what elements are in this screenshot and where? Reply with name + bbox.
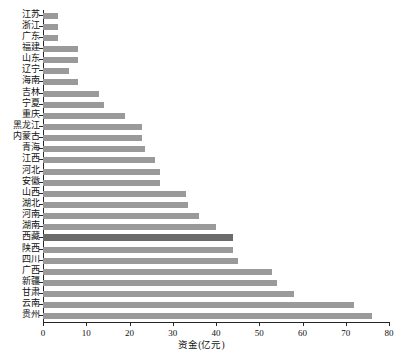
bar-新疆 xyxy=(43,280,277,286)
bar-内蒙古 xyxy=(43,135,142,141)
category-label-海南: 海南 xyxy=(0,76,40,85)
bar-安徽 xyxy=(43,180,160,186)
x-tick-label-70: 70 xyxy=(331,328,361,338)
bar-重庆 xyxy=(43,113,125,119)
x-tick-label-60: 60 xyxy=(288,328,318,338)
bar-山东 xyxy=(43,57,78,63)
category-label-广东: 广东 xyxy=(0,32,40,41)
bar-湖北 xyxy=(43,202,188,208)
x-tick xyxy=(259,322,260,326)
bar-河北 xyxy=(43,169,160,175)
x-tick-label-0: 0 xyxy=(28,328,58,338)
category-label-云南: 云南 xyxy=(0,299,40,308)
category-label-西藏: 西藏 xyxy=(0,232,40,241)
bar-陕西 xyxy=(43,247,233,253)
bar-青海 xyxy=(43,146,145,152)
bar-河南 xyxy=(43,213,199,219)
category-label-山东: 山东 xyxy=(0,54,40,63)
bar-西藏 xyxy=(43,234,233,241)
bar-江苏 xyxy=(43,13,58,19)
bar-福建 xyxy=(43,46,78,52)
x-tick-label-80: 80 xyxy=(374,328,403,338)
x-tick-label-40: 40 xyxy=(201,328,231,338)
category-label-新疆: 新疆 xyxy=(0,277,40,286)
category-label-宁夏: 宁夏 xyxy=(0,99,40,108)
category-label-广西: 广西 xyxy=(0,266,40,275)
x-tick-label-30: 30 xyxy=(158,328,188,338)
category-label-湖南: 湖南 xyxy=(0,221,40,230)
category-label-山西: 山西 xyxy=(0,188,40,197)
category-label-贵州: 贵州 xyxy=(0,310,40,319)
bar-吉林 xyxy=(43,91,99,97)
bar-山西 xyxy=(43,191,186,197)
horizontal-bar-chart: 资金(亿元) 江苏浙江广东福建山东辽宁海南吉林宁夏重庆黑龙江内蒙古青海江西河北安… xyxy=(0,0,403,358)
x-axis-title: 资金(亿元) xyxy=(0,340,403,351)
bar-贵州 xyxy=(43,313,372,319)
category-label-江西: 江西 xyxy=(0,154,40,163)
category-label-青海: 青海 xyxy=(0,143,40,152)
category-label-重庆: 重庆 xyxy=(0,110,40,119)
bar-黑龙江 xyxy=(43,124,142,130)
category-label-湖北: 湖北 xyxy=(0,199,40,208)
x-tick xyxy=(303,322,304,326)
x-tick xyxy=(173,322,174,326)
x-tick xyxy=(216,322,217,326)
category-label-吉林: 吉林 xyxy=(0,88,40,97)
bar-浙江 xyxy=(43,24,58,30)
category-label-四川: 四川 xyxy=(0,255,40,264)
category-label-浙江: 浙江 xyxy=(0,21,40,30)
bar-广东 xyxy=(43,35,58,41)
x-tick-label-10: 10 xyxy=(71,328,101,338)
bar-广西 xyxy=(43,269,272,275)
bar-甘肃 xyxy=(43,291,294,297)
category-label-陕西: 陕西 xyxy=(0,244,40,253)
x-tick-label-20: 20 xyxy=(115,328,145,338)
category-label-江苏: 江苏 xyxy=(0,10,40,19)
x-tick xyxy=(346,322,347,326)
x-tick xyxy=(130,322,131,326)
x-tick xyxy=(86,322,87,326)
category-label-安徽: 安徽 xyxy=(0,177,40,186)
bar-江西 xyxy=(43,157,155,163)
category-label-内蒙古: 内蒙古 xyxy=(0,132,40,141)
bar-四川 xyxy=(43,258,238,264)
category-label-辽宁: 辽宁 xyxy=(0,65,40,74)
bar-云南 xyxy=(43,302,354,308)
bar-湖南 xyxy=(43,224,216,230)
x-tick-label-50: 50 xyxy=(244,328,274,338)
category-label-河北: 河北 xyxy=(0,166,40,175)
category-label-甘肃: 甘肃 xyxy=(0,288,40,297)
category-label-河南: 河南 xyxy=(0,210,40,219)
category-label-黑龙江: 黑龙江 xyxy=(0,121,40,130)
bar-辽宁 xyxy=(43,68,69,74)
bar-海南 xyxy=(43,79,78,85)
bar-宁夏 xyxy=(43,102,104,108)
category-label-福建: 福建 xyxy=(0,43,40,52)
x-tick xyxy=(43,322,44,326)
plot-area xyxy=(43,10,389,322)
x-tick xyxy=(389,322,390,326)
